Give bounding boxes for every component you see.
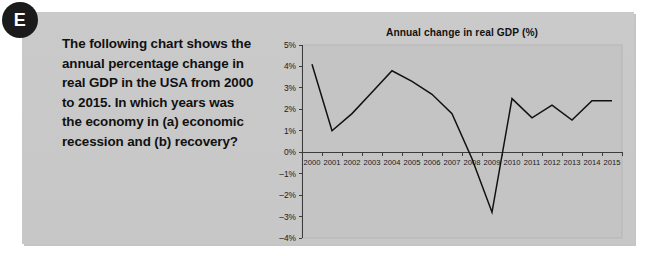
x-axis-tick-label: 2000 — [304, 158, 321, 167]
plot-background — [302, 45, 622, 238]
y-axis-tick-label: 0% — [284, 147, 297, 157]
x-axis-tick-label: 2015 — [604, 158, 621, 167]
question-letter-badge: E — [2, 2, 38, 38]
x-axis-tick-label: 2004 — [384, 158, 401, 167]
y-axis-tick-label: 3% — [284, 83, 297, 93]
y-axis-tick-label: –1% — [279, 169, 296, 179]
x-axis-tick-label: 2005 — [404, 158, 421, 167]
x-axis-tick-label: 2012 — [544, 158, 561, 167]
y-axis-tick-label: –4% — [279, 233, 296, 243]
y-axis-tick-label: 5% — [284, 40, 297, 50]
x-axis-tick-label: 2003 — [364, 158, 381, 167]
x-axis-tick-label: 2011 — [524, 158, 540, 167]
y-axis-tick-label: 2% — [284, 104, 297, 114]
page-root: The following chart shows the annual per… — [0, 0, 650, 256]
x-axis-tick-label: 2009 — [484, 158, 501, 167]
x-axis-tick-label: 2007 — [444, 158, 461, 167]
y-axis-tick-label: –3% — [279, 212, 296, 222]
x-axis-tick-label: 2014 — [584, 158, 601, 167]
x-axis-tick-label: 2010 — [504, 158, 521, 167]
question-panel: The following chart shows the annual per… — [22, 12, 634, 244]
x-axis-tick-label: 2013 — [564, 158, 581, 167]
y-axis-tick-label: 4% — [284, 61, 297, 71]
question-text: The following chart shows the annual per… — [62, 34, 254, 152]
x-axis-tick-label: 2001 — [324, 158, 341, 167]
y-axis-tick-label: –2% — [279, 190, 296, 200]
y-axis-tick-label: 1% — [284, 126, 297, 136]
gdp-line-chart: 5%4%3%2%1%0%–1%–2%–3%–4%2000200120022003… — [268, 24, 650, 256]
x-axis-tick-label: 2006 — [424, 158, 441, 167]
x-axis-tick-label: 2002 — [344, 158, 361, 167]
chart-container: Annual change in real GDP (%) 5%4%3%2%1%… — [268, 24, 650, 256]
